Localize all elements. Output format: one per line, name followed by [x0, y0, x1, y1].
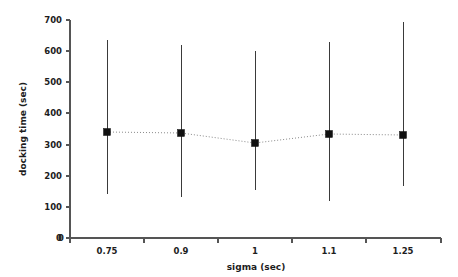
- y-tick-label-600: 600: [44, 46, 62, 56]
- x-tick-label-4: 1.25: [393, 246, 414, 256]
- y-axis-title: docking time (sec): [18, 82, 28, 176]
- plot-canvas: 700 600 500 400 300 200 100 0 0 0.75 0.9…: [0, 0, 458, 277]
- y-tick-label-400: 400: [44, 108, 62, 118]
- x-tick-label-1: 0.9: [173, 246, 188, 256]
- data-point-1[interactable]: [178, 130, 185, 137]
- y-tick-label-500: 500: [44, 77, 62, 87]
- x-axis-title: sigma (sec): [227, 262, 286, 272]
- y-tick-label-300: 300: [44, 140, 62, 150]
- error-bars-group: [107, 22, 403, 201]
- chart-figure: 700 600 500 400 300 200 100 0 0 0.75 0.9…: [0, 0, 458, 277]
- x-tick-label-3: 1.1: [321, 246, 336, 256]
- y-tick-label-700: 700: [44, 15, 62, 25]
- x-tick-label-2: 1: [252, 246, 258, 256]
- data-point-3[interactable]: [326, 131, 333, 138]
- y-tick-label-100: 100: [44, 202, 62, 212]
- x-tick-label-0: 0.75: [97, 246, 118, 256]
- y-tick-label-200: 200: [44, 171, 62, 181]
- data-point-4[interactable]: [400, 132, 407, 139]
- x-tick-label-origin: 0: [58, 233, 64, 243]
- data-point-2[interactable]: [252, 140, 259, 147]
- data-point-0[interactable]: [104, 129, 111, 136]
